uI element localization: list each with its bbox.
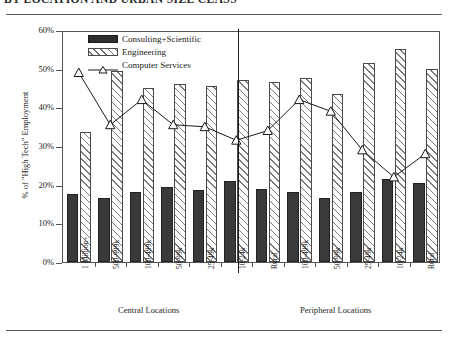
legend-item-computer-services: Computer Services xyxy=(88,59,201,71)
line-marker-triangle-icon xyxy=(74,68,83,77)
x-axis-category-label: 50-99k xyxy=(333,247,342,269)
x-axis-category-label: 100-499k xyxy=(301,240,310,269)
y-axis-label: % of "High Tech" Employment xyxy=(20,50,30,240)
x-axis-category-label: 50-99k xyxy=(175,247,184,269)
y-axis-tick-label: 20% xyxy=(38,180,54,190)
y-axis-tick-label: 60% xyxy=(38,25,54,35)
legend-swatch-hatched-bar-icon xyxy=(88,48,118,56)
legend-label: Engineering xyxy=(122,47,166,57)
line-marker-triangle-icon xyxy=(169,120,178,129)
legend-label: Computer Services xyxy=(122,60,191,70)
chart-legend: Consulting+Scientific Engineering Comput… xyxy=(88,33,201,72)
x-axis-category-label: Rural xyxy=(427,252,436,269)
line-marker-triangle-icon xyxy=(421,149,430,158)
x-axis-category-label: 500-999k xyxy=(112,240,121,269)
line-marker-triangle-icon xyxy=(137,95,146,104)
y-axis-tick-mark xyxy=(56,263,62,264)
x-axis-panel-label: Central Locations xyxy=(118,305,179,315)
top-rule xyxy=(6,14,442,15)
bottom-rule xyxy=(6,330,442,331)
x-axis-category-label: 10-24k xyxy=(396,247,405,269)
panel-divider xyxy=(238,29,239,273)
line-marker-triangle-icon xyxy=(295,95,304,104)
y-axis-tick-label: 50% xyxy=(38,64,54,74)
figure-title-strip: BY LOCATION AND URBAN SIZE CLASS xyxy=(0,0,451,14)
x-axis-category-label: 25-49k xyxy=(207,247,216,269)
y-axis-tick-label: 0% xyxy=(43,257,54,267)
x-axis-category-label: Rural xyxy=(270,252,279,269)
x-axis-category-label: 1 Million+ xyxy=(81,236,90,269)
legend-label: Consulting+Scientific xyxy=(122,34,201,44)
x-axis-panel-label: Peripheral Locations xyxy=(300,305,371,315)
legend-item-engineering: Engineering xyxy=(88,46,201,58)
line-marker-triangle-icon xyxy=(326,107,335,116)
y-axis-tick-label: 40% xyxy=(38,102,54,112)
figure-title: BY LOCATION AND URBAN SIZE CLASS xyxy=(4,0,237,5)
x-axis-category-label: 25-49k xyxy=(364,247,373,269)
y-axis-tick-label: 30% xyxy=(38,141,54,151)
legend-item-consulting-scientific: Consulting+Scientific xyxy=(88,33,201,45)
line-marker-triangle-icon xyxy=(106,120,115,129)
line-path-computer-services xyxy=(79,73,426,177)
chart-figure: BY LOCATION AND URBAN SIZE CLASS % of "H… xyxy=(0,0,451,347)
x-axis-category-label: 10-24k xyxy=(238,247,247,269)
legend-swatch-line-triangle-icon xyxy=(88,61,118,69)
y-axis-tick-label: 10% xyxy=(38,218,54,228)
line-marker-triangle-icon xyxy=(232,136,241,145)
legend-swatch-solid-bar-icon xyxy=(88,35,118,43)
x-axis-category-label: 100-499k xyxy=(144,240,153,269)
